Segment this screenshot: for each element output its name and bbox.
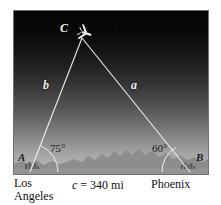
caption-los-angeles-line2: Angeles [14, 190, 70, 203]
side-label-b: b [43, 79, 49, 91]
star-speckles [31, 19, 190, 51]
vertex-label-A: A [18, 152, 25, 163]
caption-row: Los Angeles c = 340 mi Phoenix [0, 176, 221, 205]
caption-los-angeles-line1: Los [14, 176, 32, 190]
caption-phoenix: Phoenix [151, 177, 190, 192]
side-label-a: a [131, 79, 137, 91]
vertex-label-B: B [196, 152, 203, 163]
vertex-label-C: C [60, 22, 68, 34]
sky-panel: C b a A B 75° 60° [13, 10, 209, 175]
scene-graphics [13, 10, 209, 175]
ground-strip [13, 168, 209, 175]
base-measure-value: = 340 mi [77, 178, 123, 192]
triangulation-figure: C b a A B 75° 60° Los Angeles c = 340 mi… [0, 0, 221, 205]
caption-los-angeles: Los Angeles [14, 177, 70, 203]
airplane-icon [76, 24, 95, 43]
angle-label-right: 60° [152, 143, 167, 154]
caption-base-measure: c = 340 mi [72, 178, 124, 193]
angle-label-left: 75° [50, 143, 65, 154]
